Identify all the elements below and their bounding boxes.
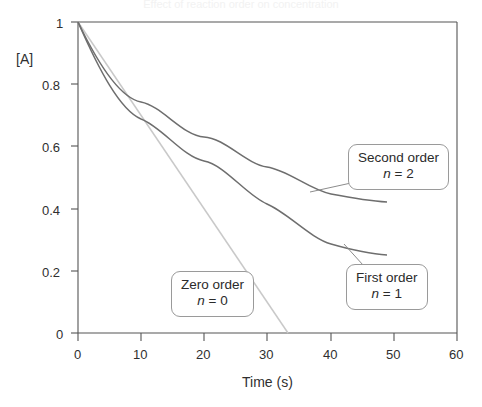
- x-tick-label-40: 40: [323, 348, 337, 361]
- callout-zero-order-line1: Zero order: [181, 277, 244, 293]
- leader-line-first-order: [344, 244, 363, 265]
- leader-line-second-order: [310, 183, 351, 192]
- x-tick-label-10: 10: [133, 348, 147, 361]
- y-tick-label-0_4: 0.4: [42, 204, 60, 217]
- y-tick-label-0_8: 0.8: [42, 79, 60, 92]
- callout-first-order-line2: n = 1: [356, 286, 418, 302]
- x-tick-label-60: 60: [449, 348, 463, 361]
- callout-second-order-var: n: [383, 166, 391, 181]
- x-tick-label-30: 30: [259, 348, 273, 361]
- y-axis-ticks: [71, 22, 78, 333]
- callout-first-order-line1: First order: [356, 270, 418, 286]
- y-tick-label-0_6: 0.6: [42, 141, 60, 154]
- callout-first-order-var: n: [372, 286, 380, 301]
- callout-zero-order-val: = 0: [205, 293, 228, 308]
- y-tick-label-1: 1: [56, 17, 63, 30]
- curve-second-order: [78, 22, 387, 202]
- callout-second-order-line1: Second order: [358, 150, 439, 166]
- curve-first-order: [78, 22, 387, 255]
- x-tick-label-20: 20: [196, 348, 210, 361]
- y-tick-label-0: 0: [56, 328, 63, 341]
- reaction-order-chart: [0, 0, 482, 407]
- x-axis-ticks: [78, 333, 457, 341]
- callout-first-order-val: = 1: [379, 286, 402, 301]
- callout-zero-order-var: n: [197, 293, 205, 308]
- callout-zero-order: Zero order n = 0: [171, 271, 254, 317]
- callout-zero-order-line2: n = 0: [181, 293, 244, 309]
- callout-second-order-line2: n = 2: [358, 166, 439, 182]
- callout-second-order-val: = 2: [391, 166, 414, 181]
- x-tick-label-50: 50: [386, 348, 400, 361]
- y-tick-label-0_2: 0.2: [42, 266, 60, 279]
- x-tick-label-0: 0: [74, 348, 81, 361]
- callout-first-order: First order n = 1: [346, 264, 428, 310]
- y-axis-title: [A]: [16, 52, 33, 66]
- x-axis-title: Time (s): [242, 375, 293, 389]
- callout-second-order: Second order n = 2: [348, 144, 449, 190]
